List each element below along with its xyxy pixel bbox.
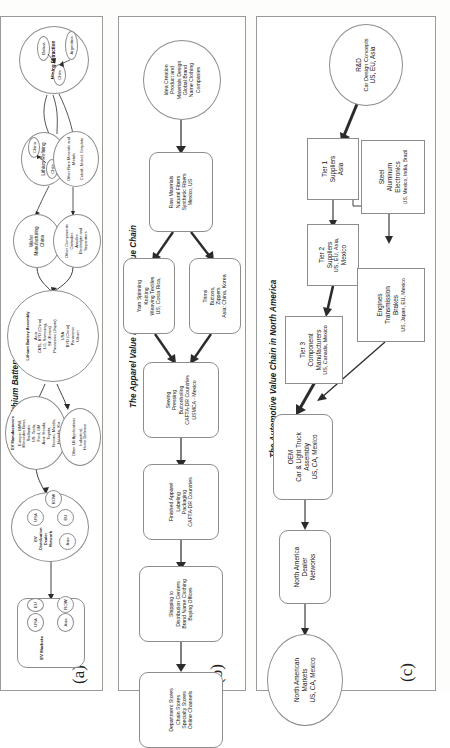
node-other-components-item2: Electrolyte and Separators — [79, 221, 89, 261]
node-finished-apparel: Finished Apparel Labeling Packaging CAFT… — [143, 464, 219, 540]
node-ev-manufacturers: EV Manufacturers Europe: BMW, Mercedes B… — [5, 396, 67, 470]
node-wafer-location: China — [40, 220, 46, 262]
panel-b: (b) The Apparel Value North American Val… — [118, 16, 246, 691]
node-other-minerals: Other Rare Minerals and Metals Cobalt, N… — [53, 131, 99, 187]
node-other-minerals-items: Cobalt, Nickel, Graphite — [80, 137, 85, 181]
node-north-american-markets: North American Markets US, CA, Mexico — [267, 634, 343, 726]
node-ev-manufacturers-europe: Europe: BMW, Mercedes Benz, Stellantis — [18, 400, 33, 466]
node-tier-1: Tier 1 Suppliers Asia — [307, 138, 359, 200]
node-engines: Engines Transmission Brakes US, Japan, E… — [357, 268, 425, 342]
node-rd: R&D Car Design Concepts US, EU, Asia — [329, 24, 403, 106]
node-assembly-asia: Asia CATL, BYD (China) LG, Samsung, SK (… — [34, 296, 58, 376]
node-markets-lines: North American Markets US, CA, Mexico — [293, 639, 316, 721]
node-dealer-lines: North America Dealer Networks — [293, 533, 316, 601]
node-yarn-spinning: Yarn Spinning Knitting Weaving Textiles … — [123, 258, 175, 334]
mini-dist-row: ROW — [45, 490, 62, 508]
node-idea-creation: Idea Creation Product and Materials Desi… — [143, 40, 221, 120]
node-yarn-spinning-lines: Yarn Spinning Knitting Weaving Textiles … — [136, 261, 161, 331]
panel-c: (c) The Automotive Value Chain in North … — [256, 16, 436, 691]
node-tier-3-lines: Tier 3 Component Manufacturers US, Canad… — [299, 319, 329, 381]
node-raw-materials-lines: Raw Materials Natural Fibers Synthetic F… — [168, 156, 193, 228]
mini-markets-asia: Asia — [57, 613, 74, 632]
node-tier-1-lines: Tier 1 Suppliers Asia — [321, 141, 344, 197]
node-materials: Steel Aluminum Electronics US, Mexico, I… — [361, 140, 425, 214]
mini-dist-eu: EU — [57, 509, 74, 526]
node-tier-2-lines: Tier 2 Suppliers US, EU, Asia, Mexico — [318, 227, 349, 283]
node-raw-materials: Raw Materials Natural Fibers Synthetic F… — [149, 152, 213, 232]
node-ev-distribution-label: EV Distribution Dealer Network — [33, 528, 53, 550]
node-other-components: Other Components Cathodes Anodes Electro… — [53, 214, 101, 268]
node-oem-lines: OEM Car & Light Truck Assembly US, CA, M… — [287, 417, 318, 497]
node-finished-apparel-lines: Finished Apparel Labeling Packaging CAFT… — [168, 467, 193, 537]
node-engines-lines: Engines Transmission Brakes US, Japan, E… — [376, 271, 406, 339]
node-ev-markets-label: EV Markets — [39, 636, 44, 660]
mini-markets-eu: EU — [27, 598, 44, 612]
mini-markets-usa: USA — [27, 613, 44, 632]
node-sewing: Sewing Pressing Buttonholing CAFTA-DR Co… — [143, 362, 219, 438]
node-shipping-lines: Shipping to Distribution Centers Brand N… — [168, 569, 193, 639]
node-other-minerals-title: Other Rare Minerals and Metals — [67, 137, 77, 181]
node-other-lb-applications: Other LB Applications Industrial, Home D… — [59, 408, 101, 466]
node-trims-lines: Trims Buttons, Zippers Asia: China, Kore… — [202, 261, 227, 331]
panel-a: (a) The Lithium Battery GVC — [0, 16, 103, 691]
node-other-lb-title: Other LB Applications — [72, 413, 77, 461]
mini-dist-asia: Asia — [59, 533, 76, 550]
node-retail-channels: Department Stores Chain Stores Specialty… — [139, 672, 223, 748]
node-tier-3: Tier 3 Component Manufacturers US, Canad… — [285, 316, 343, 384]
node-shipping: Shipping to Distribution Centers Brand N… — [139, 566, 223, 642]
node-idea-creation-lines: Idea Creation Product and Materials Desi… — [163, 46, 201, 114]
node-sewing-lines: Sewing Pressing Buttonholing CAFTA-DR Co… — [165, 365, 197, 435]
node-other-lb-item1: Home Defense — [83, 413, 88, 461]
node-tier-2: Tier 2 Suppliers US, EU, Asia, Mexico — [307, 224, 359, 286]
node-materials-lines: Steel Aluminum Electronics US, Mexico, I… — [378, 143, 408, 211]
node-retail-lines: Department Stores Chain Stores Specialty… — [168, 675, 193, 745]
node-assembly-usa: USA BYD (China) Panasonic Ultium — [61, 296, 81, 376]
mini-dist-usa: USA — [27, 509, 44, 526]
node-trims: Trims Buttons, Zippers Asia: China, Kore… — [189, 258, 241, 334]
node-dealer-networks: North America Dealer Networks — [279, 530, 331, 604]
node-wafer-title: Wafer Manufacturing — [29, 220, 40, 262]
node-oem: OEM Car & Light Truck Assembly US, CA, M… — [273, 414, 333, 500]
node-lithium-battery-assembly: Lithium Battery Assembly Asia CATL, BYD … — [7, 290, 99, 382]
node-rd-lines: R&D Car Design Concepts US, EU, Asia — [355, 28, 377, 102]
mini-markets-row: ROW — [57, 596, 74, 613]
